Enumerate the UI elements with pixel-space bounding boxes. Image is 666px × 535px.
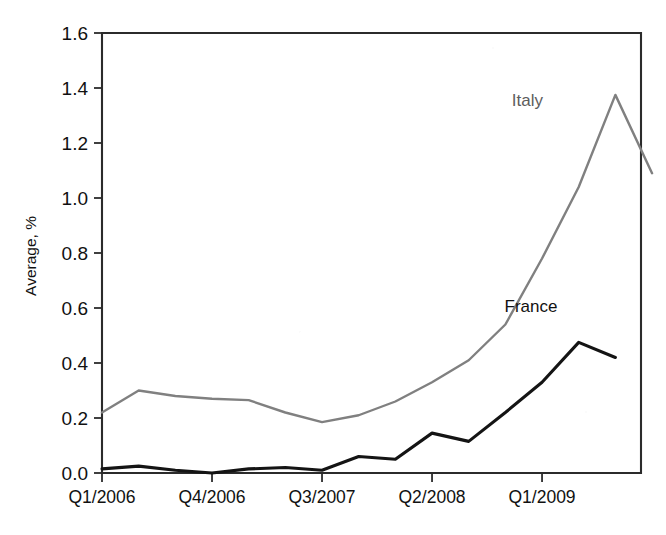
line-chart: 0.00.20.40.60.81.01.21.41.6 Q1/2006Q4/20…: [0, 0, 666, 535]
series-label-france: France: [505, 297, 558, 316]
y-tick-label: 1.0: [62, 188, 88, 209]
y-tick-label: 0.4: [62, 353, 89, 374]
y-tick-label: 0.2: [62, 408, 88, 429]
y-tick-labels: 0.00.20.40.60.81.01.21.41.6: [62, 23, 89, 484]
chart-background: [0, 0, 666, 535]
x-tick-label: Q3/2007: [288, 487, 355, 507]
x-tick-label: Q1/2009: [508, 487, 575, 507]
x-tick-label: Q4/2006: [178, 487, 245, 507]
chart-figure: 0.00.20.40.60.81.01.21.41.6 Q1/2006Q4/20…: [0, 0, 666, 535]
y-tick-label: 1.4: [62, 78, 89, 99]
y-tick-label: 1.2: [62, 133, 88, 154]
y-tick-label: 0.6: [62, 298, 88, 319]
series-label-italy: Italy: [512, 91, 544, 110]
y-axis-title: Average, %: [22, 216, 39, 296]
x-tick-label: Q2/2008: [398, 487, 465, 507]
x-tick-label: Q1/2006: [68, 487, 135, 507]
y-tick-label: 0.0: [62, 463, 88, 484]
y-tick-label: 0.8: [62, 243, 88, 264]
y-tick-label: 1.6: [62, 23, 88, 44]
